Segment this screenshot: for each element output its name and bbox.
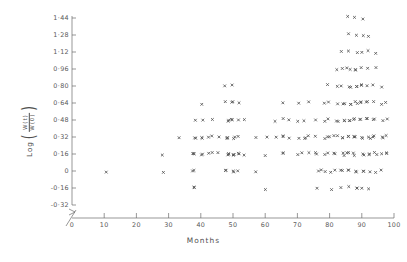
x-tick-label: 70 [285, 222, 309, 228]
data-point [323, 153, 326, 156]
data-point [326, 83, 329, 86]
x-tick-label: 80 [318, 222, 342, 228]
y-tick-label: 0·16 [53, 151, 69, 157]
x-tick-label: 30 [157, 222, 181, 228]
data-point [287, 118, 290, 121]
data-point [218, 136, 221, 139]
data-point [231, 84, 234, 87]
data-point-markers [105, 15, 389, 191]
x-tick-marks [104, 213, 394, 218]
data-point [105, 171, 108, 174]
y-axis-break-icon [69, 209, 75, 215]
data-point [336, 103, 339, 106]
data-point [375, 153, 378, 156]
data-point [349, 103, 352, 106]
y-tick-label: 0·32 [53, 134, 69, 140]
x-axis-title: Months [0, 236, 407, 245]
data-point [282, 101, 285, 104]
data-point [367, 35, 370, 38]
data-point [341, 67, 344, 70]
data-point [329, 171, 332, 174]
data-point [224, 100, 227, 103]
data-point [266, 136, 269, 139]
paren-close: ) [20, 105, 38, 111]
data-point [361, 137, 364, 140]
y-tick-label: -0·16 [51, 185, 69, 191]
data-point [317, 170, 320, 173]
data-point [382, 119, 385, 122]
data-point [336, 85, 339, 88]
data-point [314, 119, 317, 122]
data-point [223, 85, 226, 88]
data-point [366, 84, 369, 87]
data-point [282, 117, 285, 120]
x-tick-label: 60 [253, 222, 277, 228]
y-tick-label: -0·32 [51, 202, 69, 208]
y-tick-label: 0·48 [53, 117, 69, 123]
fraction-denominator: W(0) [29, 113, 35, 132]
data-point [237, 135, 240, 138]
data-point [355, 34, 358, 37]
x-tick-label: 90 [350, 222, 374, 228]
data-point [288, 137, 291, 140]
x-tick-label: 40 [189, 222, 213, 228]
data-point [362, 18, 365, 21]
data-point [296, 120, 299, 123]
y-tick-label: 1·44 [53, 15, 69, 21]
data-point [308, 151, 311, 154]
data-point [342, 152, 345, 155]
y-axis-title-fraction: W(t) W(0) [23, 113, 35, 132]
data-point [384, 101, 387, 104]
data-point [264, 154, 267, 157]
data-point [162, 171, 165, 174]
data-point [303, 119, 306, 122]
data-point [307, 101, 310, 104]
data-point [361, 153, 364, 156]
data-point [380, 169, 383, 172]
data-point [347, 185, 350, 188]
data-point [201, 153, 204, 156]
data-point [314, 135, 317, 138]
data-point [315, 153, 318, 156]
y-tick-label: 1·12 [53, 49, 69, 55]
data-point [360, 187, 363, 190]
data-point [207, 152, 210, 155]
data-point [327, 101, 330, 104]
data-point [343, 154, 346, 157]
data-point [336, 134, 339, 137]
data-point [372, 100, 375, 103]
x-tick-label: 20 [124, 222, 148, 228]
data-point [362, 34, 365, 37]
data-point [367, 49, 370, 52]
data-point [374, 52, 377, 55]
data-point [326, 136, 329, 139]
y-tick-label: 0·96 [53, 66, 69, 72]
y-axis-title-prefix: Log [25, 141, 34, 157]
x-tick-label: 10 [92, 222, 116, 228]
data-point [356, 51, 359, 54]
data-point [161, 154, 164, 157]
y-axis-title: Log ( W(t) W(0) ) [23, 105, 35, 157]
data-point [200, 103, 203, 106]
data-point [372, 84, 375, 87]
data-point [360, 66, 363, 69]
data-point [255, 136, 258, 139]
data-point [360, 51, 363, 54]
data-point [380, 152, 383, 155]
data-point [345, 67, 348, 70]
data-point [340, 186, 343, 189]
data-point [326, 152, 329, 155]
data-point [347, 32, 350, 35]
x-tick-label: 0 [60, 222, 84, 228]
data-point [237, 119, 240, 122]
data-point [211, 151, 214, 154]
data-point [354, 100, 357, 103]
data-point [178, 136, 181, 139]
data-point [300, 151, 303, 154]
data-point [323, 102, 326, 105]
data-point [375, 66, 378, 69]
data-point [367, 188, 370, 191]
data-point [274, 120, 277, 123]
data-point [264, 188, 267, 191]
data-point [210, 135, 213, 138]
